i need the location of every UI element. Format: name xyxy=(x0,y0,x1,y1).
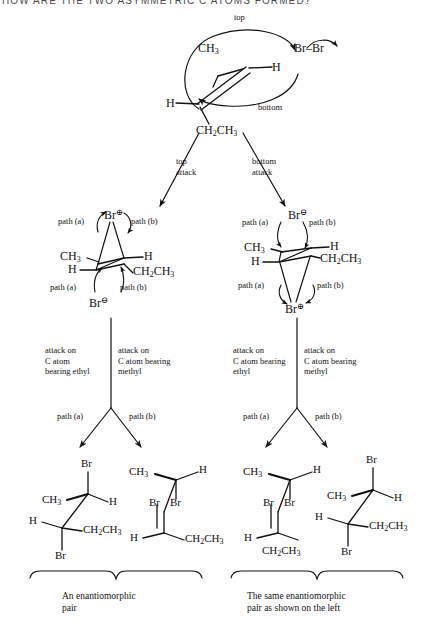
product-2-br-right: Br xyxy=(170,497,181,508)
product-2-hydrogen-upper: H xyxy=(199,464,207,475)
product-4-hydrogen-lower: H xyxy=(315,511,323,522)
right-int-hydrogen-left: H xyxy=(251,255,260,267)
page-header-text: HOW ARE THE TWO ASYMMETRIC C ATOMS FORME… xyxy=(2,0,311,6)
right-nucleophile-bromide: Br⊖ xyxy=(288,208,307,221)
product-3-hydrogen-lower: H xyxy=(244,532,252,543)
product-1-bottom-br: Br xyxy=(55,550,66,561)
product-2-br-left: Br xyxy=(149,497,160,508)
left-bottom-path-b: path (b) xyxy=(120,283,147,292)
product-1-top-br: Br xyxy=(81,458,92,469)
split-right-path-b: path (b) xyxy=(315,412,342,421)
diagram-canvas: HOW ARE THE TWO ASYMMETRIC C ATOMS FORME… xyxy=(0,0,431,638)
product-3-br-right: Br xyxy=(284,497,295,508)
product-4-bottom-br: Br xyxy=(341,546,352,557)
product-4-methyl: CH3 xyxy=(327,490,346,503)
right-bottom-path-b: path (b) xyxy=(317,281,344,290)
product-1-hydrogen-upper: H xyxy=(109,496,117,507)
product-4-ethyl: CH2CH3 xyxy=(369,520,408,533)
face-label-bottom: bottom xyxy=(258,103,282,112)
product-3-br-left: Br xyxy=(263,497,274,508)
right-bottom-path-a: path (a) xyxy=(238,281,264,290)
product-1-hydrogen-lower: H xyxy=(29,515,37,526)
left-nucleophile-bromide: Br⊖ xyxy=(89,296,108,309)
reagent-bromine-molecule: Br–Br xyxy=(294,42,324,54)
right-int-ethyl: CH2CH3 xyxy=(320,252,361,266)
left-top-path-a: path (a) xyxy=(58,217,84,226)
face-label-top: top xyxy=(234,13,245,22)
alkene-ethyl-label: CH2CH3 xyxy=(196,124,237,138)
left-bottom-path-a: path (a) xyxy=(50,283,76,292)
alkene-methyl-label: CH3 xyxy=(198,42,219,56)
product-4-hydrogen-upper: H xyxy=(394,492,402,503)
product-2-hydrogen-lower: H xyxy=(130,532,138,543)
product-3-methyl: CH3 xyxy=(243,466,262,479)
left-int-hydrogen-right: H xyxy=(144,250,153,262)
split-left-path-a: path (a) xyxy=(57,412,83,421)
branch-label-left: topattack xyxy=(176,156,196,177)
split-left-path-b: path (b) xyxy=(129,412,156,421)
attack-note-left-a: attack onC atombearing ethyl xyxy=(45,345,90,377)
attack-note-right-a: attack onC atom bearingethyl xyxy=(233,345,285,377)
right-bromonium-bridging-br: Br⊕ xyxy=(285,302,304,315)
attack-note-left-b: attack onC atom bearingmethyl xyxy=(118,345,170,377)
split-right-path-a: path (a) xyxy=(243,412,269,421)
branch-label-right: bottomattack xyxy=(252,156,276,177)
left-int-ethyl: CH2CH3 xyxy=(133,265,174,279)
alkene-hydrogen-left-label: H xyxy=(166,97,175,109)
product-1-methyl: CH3 xyxy=(42,494,61,507)
alkene-hydrogen-right-label: H xyxy=(272,61,281,73)
product-1-ethyl: CH2CH3 xyxy=(83,524,122,537)
right-int-methyl: CH3 xyxy=(244,241,265,255)
product-2-methyl: CH3 xyxy=(129,466,148,479)
product-4-top-br: Br xyxy=(366,454,377,465)
right-top-path-b: path (b) xyxy=(309,218,336,227)
left-top-path-b: path (b) xyxy=(131,217,158,226)
product-3-hydrogen-upper: H xyxy=(313,464,321,475)
attack-note-right-b: attack onC atom bearingmethyl xyxy=(304,345,356,377)
caption-right: The same enantiomorphicpair as shown on … xyxy=(247,590,346,614)
product-2-ethyl: CH2CH3 xyxy=(185,533,224,546)
caption-left: An enantiomorphicpair xyxy=(62,590,136,614)
left-bromonium-bridging-br: Br⊕ xyxy=(104,208,123,221)
product-3-ethyl: CH2CH3 xyxy=(262,545,301,558)
right-top-path-a: path (a) xyxy=(242,218,268,227)
left-int-hydrogen-left: H xyxy=(68,263,77,275)
page-header-clipped: HOW ARE THE TWO ASYMMETRIC C ATOMS FORME… xyxy=(0,0,431,8)
